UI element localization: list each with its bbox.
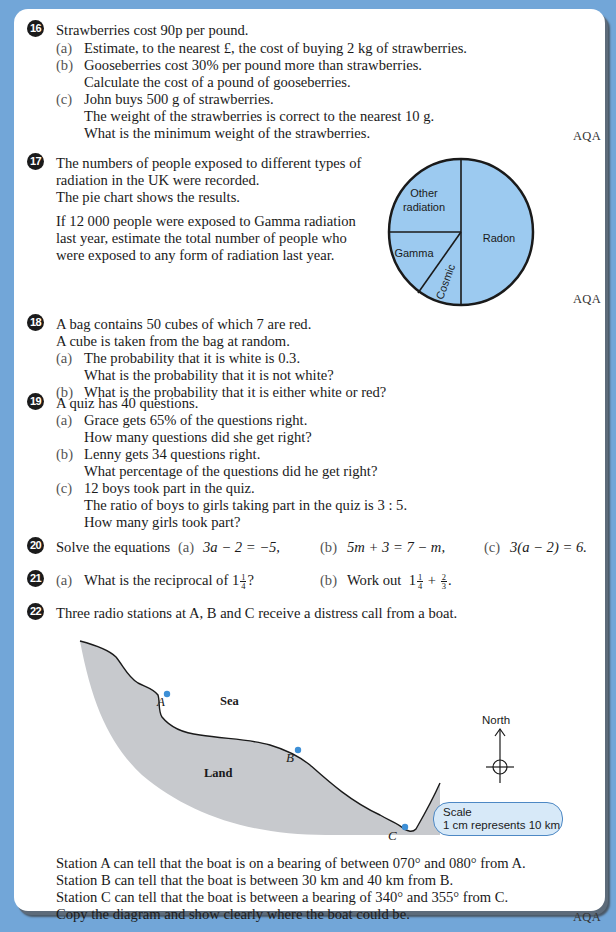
land-area: [80, 641, 440, 835]
question-text: last year, estimate the total number of …: [56, 230, 347, 247]
part-text: The probability that it is white is 0.3.: [84, 350, 300, 367]
operator: +: [428, 572, 436, 588]
fraction-denominator: 3: [441, 582, 447, 590]
station-b-label: B: [286, 749, 294, 766]
source-label: AQA: [573, 291, 601, 308]
part-text-prefix: What is the reciprocal of: [84, 572, 228, 588]
part-text: What percentage of the questions did he …: [84, 463, 377, 480]
part-text: Work out 114 + 23.: [347, 572, 452, 590]
fraction: 14: [417, 573, 423, 590]
question-text: The numbers of people exposed to differe…: [56, 155, 361, 172]
part-label: (c): [56, 480, 72, 497]
part-text: The weight of the strawberries is correc…: [84, 108, 434, 125]
question-text: Copy the diagram and show clearly where …: [56, 906, 410, 923]
part-text: Gooseberries cost 30% per pound more tha…: [84, 57, 422, 74]
part-label: (b): [56, 446, 73, 463]
part-text: The ratio of boys to girls taking part i…: [84, 497, 407, 514]
pie-label-gamma: Gamma: [394, 247, 434, 259]
scale-title: Scale: [443, 806, 562, 819]
fraction: 23: [441, 573, 447, 590]
question-number-badge: 22: [27, 603, 44, 620]
question-text: Station C can tell that the boat is betw…: [56, 889, 508, 906]
source-label: AQA: [573, 909, 601, 926]
station-c-label: C: [388, 827, 397, 844]
station-c-marker: [402, 824, 408, 830]
question-number-badge: 18: [27, 314, 44, 331]
question-number-badge: 20: [27, 537, 44, 554]
part-label: (a): [56, 350, 72, 367]
question-text: Station A can tell that the boat is on a…: [56, 855, 526, 872]
question-text: Three radio stations at A, B and C recei…: [56, 605, 457, 622]
fraction-denominator: 4: [417, 582, 423, 590]
north-compass-icon: [484, 727, 524, 785]
pie-label-other-2: radiation: [403, 201, 445, 213]
equation: 3a − 2 = −5,: [203, 539, 280, 556]
scale-text: 1 cm represents 10 km: [443, 819, 562, 832]
question-text: radiation in the UK were recorded.: [56, 172, 259, 189]
part-label: (b): [56, 57, 73, 74]
question-text: were exposed to any form of radiation la…: [56, 247, 334, 264]
station-a-label: A: [157, 693, 165, 710]
question-number-badge: 16: [27, 20, 44, 37]
part-text: John buys 500 g of strawberries.: [84, 91, 274, 108]
question-number-badge: 21: [27, 570, 44, 587]
part-text: Lenny gets 34 questions right.: [84, 446, 260, 463]
part-label: (b): [320, 572, 337, 589]
pie-label-radon: Radon: [483, 232, 515, 244]
question-text: Strawberries cost 90p per pound.: [56, 22, 249, 39]
punctuation: ?: [247, 572, 253, 588]
part-text: What is the reciprocal of 114?: [84, 572, 254, 590]
question-text: A cube is taken from the bag at random.: [56, 333, 290, 350]
pie-chart: Other radiation Radon Gamma Cosmic: [386, 157, 536, 307]
question-number-badge: 19: [27, 393, 44, 410]
part-label: (a): [56, 40, 72, 57]
question-number-badge: 17: [27, 153, 44, 170]
part-text-prefix: Work out: [347, 572, 401, 588]
part-label: (b): [320, 539, 337, 556]
question-text: A bag contains 50 cubes of which 7 are r…: [56, 316, 311, 333]
part-text: What is the probability that it is not w…: [84, 367, 334, 384]
source-label: AQA: [573, 128, 601, 145]
punctuation: .: [448, 572, 452, 588]
question-text: If 12 000 people were exposed to Gamma r…: [56, 213, 356, 230]
part-label: (a): [178, 539, 194, 556]
part-label: (a): [56, 572, 72, 589]
mixed-number-whole: 1: [409, 572, 416, 588]
scale-box: Scale 1 cm represents 10 km: [433, 802, 563, 836]
pie-label-other: Other: [410, 187, 438, 199]
part-label: (c): [56, 91, 72, 108]
sea-label: Sea: [220, 693, 239, 710]
fraction-denominator: 4: [240, 582, 246, 590]
fraction: 14: [240, 573, 246, 590]
station-b-marker: [295, 747, 301, 753]
question-text: Station B can tell that the boat is betw…: [56, 872, 453, 889]
worksheet-card: 16 Strawberries cost 90p per pound. (a) …: [14, 9, 605, 911]
part-text: Estimate, to the nearest £, the cost of …: [84, 40, 467, 57]
part-text: Grace gets 65% of the questions right.: [84, 412, 307, 429]
land-label: Land: [204, 765, 233, 782]
question-text: A quiz has 40 questions.: [56, 395, 198, 412]
equation: 5m + 3 = 7 − m,: [347, 539, 445, 556]
part-text: How many questions did she get right?: [84, 429, 312, 446]
part-text: What is the minimum weight of the strawb…: [84, 125, 370, 142]
equation: 3(a − 2) = 6.: [510, 539, 587, 556]
question-text: The pie chart shows the results.: [56, 189, 240, 206]
part-label: (c): [484, 539, 500, 556]
part-text: 12 boys took part in the quiz.: [84, 480, 255, 497]
mixed-number-whole: 1: [232, 572, 239, 588]
question-text: Solve the equations: [56, 539, 170, 556]
part-label: (a): [56, 412, 72, 429]
part-text: How many girls took part?: [84, 514, 240, 531]
part-text: Calculate the cost of a pound of goosebe…: [84, 74, 351, 91]
